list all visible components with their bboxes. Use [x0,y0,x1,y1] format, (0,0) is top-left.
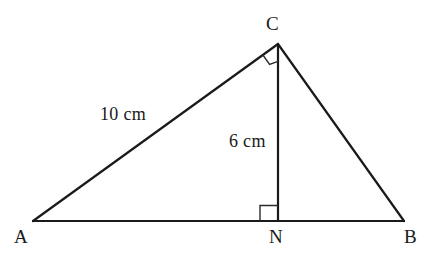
right-angle-marker-n [260,206,278,221]
vertex-label-n: N [269,227,283,246]
vertex-label-a: A [14,227,28,246]
measure-label-cn: 6 cm [229,132,266,150]
vertex-label-c: C [266,14,279,33]
measure-label-ac: 10 cm [100,105,146,123]
geometry-figure: A B C N 10 cm 6 cm [0,0,431,257]
triangle-diagram-canvas [0,0,431,257]
vertex-label-b: B [404,227,417,246]
segment-cb [278,44,404,221]
right-angle-marker-c [263,55,278,64]
